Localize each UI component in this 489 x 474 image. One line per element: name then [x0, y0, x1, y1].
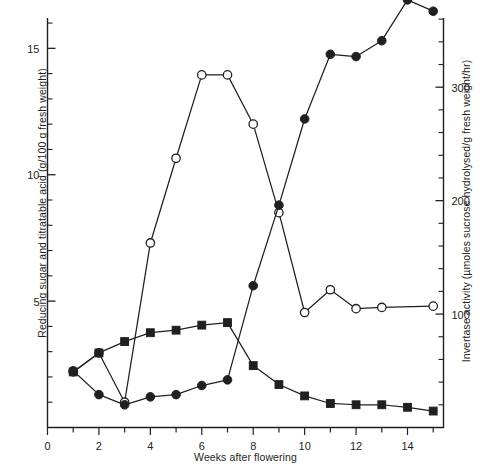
data-point-filled-circle: [197, 381, 206, 390]
y-axis-right-title: Invertase activity (µmoles sucrose hydro…: [460, 51, 472, 371]
tick-label: 4: [147, 440, 153, 452]
data-point-open-circle: [249, 120, 257, 128]
tick-label: 12: [350, 440, 362, 452]
data-point-filled-square: [326, 400, 334, 408]
tick-label: 14: [401, 440, 413, 452]
data-point-open-circle: [300, 308, 308, 316]
axes-group: [48, 18, 444, 435]
tick-label: 0: [44, 440, 50, 452]
data-point-filled-square: [95, 349, 103, 357]
data-point-filled-circle: [377, 36, 386, 45]
data-point-filled-square: [404, 403, 412, 411]
data-point-filled-square: [352, 401, 360, 409]
data-point-open-circle: [326, 286, 334, 294]
x-axis-ticks: [48, 428, 434, 436]
data-point-filled-circle: [352, 52, 361, 61]
data-point-filled-circle: [429, 7, 438, 16]
data-point-filled-circle: [300, 115, 309, 124]
data-series: [69, 71, 437, 407]
tick-label: 6: [199, 440, 205, 452]
data-point-filled-circle: [172, 390, 181, 399]
tick-label: 10: [299, 440, 311, 452]
data-point-open-circle: [378, 303, 386, 311]
data-point-filled-circle: [120, 401, 129, 410]
tick-label: 8: [250, 440, 256, 452]
tick-label: 2: [96, 440, 102, 452]
data-point-filled-square: [121, 338, 129, 346]
data-series: [69, 0, 438, 409]
data-point-open-circle: [146, 239, 154, 247]
data-point-filled-circle: [275, 201, 284, 210]
data-point-filled-square: [146, 329, 154, 337]
data-point-filled-circle: [403, 0, 412, 4]
axis-spines: [48, 18, 444, 428]
data-point-open-circle: [223, 71, 231, 79]
x-axis-title: Weeks after flowering: [47, 451, 444, 463]
data-point-open-circle: [352, 304, 360, 312]
data-point-filled-square: [301, 392, 309, 400]
data-point-filled-circle: [326, 50, 335, 59]
data-point-filled-square: [378, 401, 386, 409]
y-axis-left-title: Reducing sugar and titratable acid (g/10…: [36, 53, 48, 353]
data-point-open-circle: [172, 154, 180, 162]
data-point-filled-square: [429, 407, 437, 415]
data-point-filled-circle: [249, 281, 258, 290]
data-point-filled-square: [249, 362, 257, 370]
figure: 0246810121451015100200300 Reducing sugar…: [0, 0, 489, 474]
data-point-filled-square: [172, 326, 180, 334]
y-axis-left-ticks: [48, 23, 56, 402]
data-point-filled-square: [224, 319, 232, 327]
data-point-filled-square: [198, 321, 206, 329]
data-point-filled-square: [275, 381, 283, 389]
data-point-open-circle: [429, 302, 437, 310]
data-point-filled-circle: [146, 393, 155, 402]
data-point-filled-circle: [223, 376, 232, 385]
data-point-open-circle: [198, 71, 206, 79]
y-axis-right-ticks: [436, 19, 444, 405]
chart-plot-area: 0246810121451015100200300: [0, 0, 489, 474]
data-point-filled-circle: [69, 366, 78, 375]
data-point-filled-circle: [95, 390, 104, 399]
